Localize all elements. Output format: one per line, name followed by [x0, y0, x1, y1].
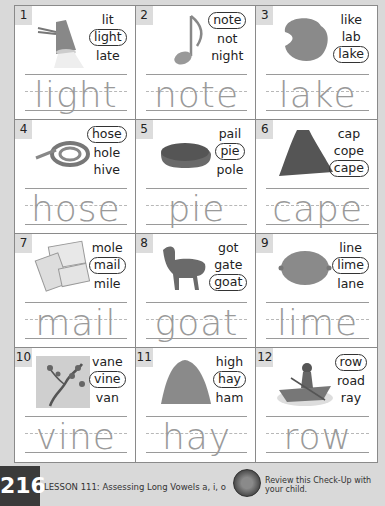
item-number: 10	[15, 348, 32, 367]
worksheet-item-7: 7molemailmilemail	[15, 234, 136, 348]
word-choices: pailpiepole	[213, 125, 248, 178]
item-number: 8	[136, 234, 153, 253]
word-choices: molemailmile	[88, 239, 127, 292]
worksheet-item-9: 9linelimelanelime	[256, 234, 377, 348]
written-answer[interactable]: hay	[146, 419, 248, 455]
lamp-image	[33, 12, 95, 68]
worksheet-item-6: 6capcopecapecape	[256, 120, 377, 234]
written-answer[interactable]: pie	[146, 191, 248, 227]
word-choices: notenotnight	[207, 11, 247, 64]
goat-image	[154, 240, 216, 296]
word-choice[interactable]: gate	[210, 256, 246, 273]
word-choice[interactable]: lit	[98, 11, 118, 28]
word-choices: likelablake	[333, 11, 369, 64]
review-note: Review this Check-Up with your child.	[265, 476, 385, 494]
item-number: 6	[256, 120, 273, 139]
written-answer[interactable]: row	[266, 419, 369, 455]
item-number: 9	[256, 234, 273, 253]
item-number: 4	[15, 120, 32, 139]
word-choices: rowroadray	[333, 353, 369, 406]
written-answer[interactable]: vine	[25, 419, 127, 455]
word-choices: hoseholehive	[87, 125, 127, 178]
circled-choice[interactable]: cape	[329, 160, 369, 177]
written-answer[interactable]: lake	[266, 77, 369, 113]
word-choices: linelimelane	[332, 239, 369, 292]
item-number: 7	[15, 234, 32, 253]
circled-choice[interactable]: lime	[332, 257, 369, 274]
item-number: 1	[15, 6, 32, 25]
mail-image	[33, 240, 95, 296]
circled-choice[interactable]: mail	[89, 257, 126, 274]
handwriting-lines: light	[25, 74, 127, 114]
circled-choice[interactable]: light	[89, 29, 127, 46]
word-choice[interactable]: cope	[330, 142, 368, 159]
circled-choice[interactable]: note	[208, 12, 246, 29]
word-choice[interactable]: not	[213, 30, 241, 47]
handwriting-lines: goat	[146, 302, 248, 342]
written-answer[interactable]: mail	[25, 305, 127, 341]
word-choice[interactable]: night	[207, 47, 247, 64]
word-choice[interactable]: line	[335, 239, 366, 256]
handwriting-lines: vine	[25, 416, 127, 456]
vine-image	[33, 354, 95, 410]
worksheet-item-5: 5pailpiepolepie	[136, 120, 257, 234]
seal-icon	[233, 469, 261, 497]
word-choice[interactable]: cap	[334, 125, 364, 142]
page-number: 216	[0, 466, 40, 506]
written-answer[interactable]: lime	[266, 305, 369, 341]
word-choice[interactable]: road	[333, 372, 369, 389]
circled-choice[interactable]: lake	[333, 46, 369, 63]
word-choices: litlightlate	[89, 11, 127, 64]
worksheet-item-12: 12rowroadrayrow	[256, 348, 377, 462]
word-choices: gotgategoat	[209, 239, 247, 292]
written-answer[interactable]: hose	[25, 191, 127, 227]
worksheet-item-10: 10vanevinevanvine	[15, 348, 136, 462]
word-choice[interactable]: late	[92, 47, 124, 64]
written-answer[interactable]: goat	[146, 305, 248, 341]
worksheet-item-3: 3likelablakelake	[256, 6, 377, 120]
word-choice[interactable]: vane	[88, 353, 127, 370]
circled-choice[interactable]: vine	[89, 371, 125, 388]
word-choice[interactable]: like	[336, 11, 365, 28]
word-choice[interactable]: ham	[212, 389, 248, 406]
written-answer[interactable]: note	[146, 77, 248, 113]
circled-choice[interactable]: row	[335, 354, 368, 371]
handwriting-lines: cape	[266, 188, 369, 228]
hose-image	[33, 126, 95, 182]
word-choice[interactable]: got	[214, 239, 242, 256]
pie-image	[154, 126, 216, 182]
worksheet-item-1: 1litlightlatelight	[15, 6, 136, 120]
circled-choice[interactable]: goat	[209, 274, 247, 291]
worksheet-item-2: 2notenotnightnote	[136, 6, 257, 120]
written-answer[interactable]: light	[25, 77, 127, 113]
word-choice[interactable]: mile	[90, 275, 125, 292]
word-choice[interactable]: hive	[90, 161, 124, 178]
item-number: 3	[256, 6, 273, 25]
circled-choice[interactable]: hose	[87, 126, 127, 143]
lake-image	[274, 12, 336, 68]
word-choice[interactable]: hole	[89, 144, 124, 161]
word-choices: highhayham	[212, 353, 248, 406]
cape-image	[274, 126, 336, 182]
word-choice[interactable]: van	[92, 389, 123, 406]
lesson-title: LESSON 111: Assessing Long Vowels a, i, …	[44, 482, 226, 492]
word-choice[interactable]: lab	[338, 28, 365, 45]
word-choice[interactable]: pole	[213, 161, 248, 178]
item-number: 2	[136, 6, 153, 25]
word-choice[interactable]: lane	[333, 275, 368, 292]
handwriting-lines: lime	[266, 302, 369, 342]
item-number: 11	[136, 348, 153, 367]
word-choice[interactable]: high	[212, 353, 247, 370]
word-choice[interactable]: ray	[337, 389, 365, 406]
worksheet-grid: 1litlightlatelight2notenotnightnote3like…	[14, 5, 378, 463]
handwriting-lines: pie	[146, 188, 248, 228]
circled-choice[interactable]: hay	[213, 371, 246, 388]
word-choice[interactable]: pail	[215, 125, 246, 142]
worksheet-item-8: 8gotgategoatgoat	[136, 234, 257, 348]
row-boat-image	[274, 354, 336, 410]
handwriting-lines: row	[266, 416, 369, 456]
circled-choice[interactable]: pie	[215, 143, 244, 160]
written-answer[interactable]: cape	[266, 191, 369, 227]
handwriting-lines: lake	[266, 74, 369, 114]
word-choice[interactable]: mole	[88, 239, 127, 256]
